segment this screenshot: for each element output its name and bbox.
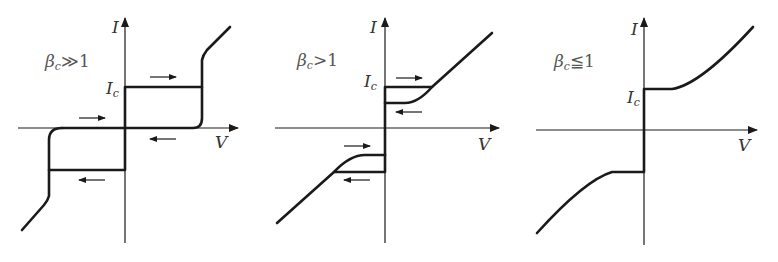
condition-label: βc≦1 xyxy=(553,51,595,73)
iv-curve-quasiparticle-upper xyxy=(62,27,230,128)
panel-2: βc>1 I V Ic xyxy=(275,17,499,243)
iv-curve-retrap-lower xyxy=(277,155,385,223)
i-axis-label: I xyxy=(111,17,119,37)
i-axis-label: I xyxy=(630,19,638,39)
i-axis-label: I xyxy=(369,17,377,37)
v-axis-label: V xyxy=(478,134,492,154)
iv-curve-upper xyxy=(125,87,202,128)
iv-curve-lower xyxy=(49,128,125,170)
ic-label: Ic xyxy=(105,78,119,100)
iv-characteristics-figure: βc≫1 I V Ic βc>1 I V Ic βc≦1 I V Ic xyxy=(0,0,778,262)
panel-3: βc≦1 I V Ic xyxy=(536,18,757,245)
ic-label: Ic xyxy=(363,71,377,93)
iv-curve-quasiparticle-lower xyxy=(22,128,62,230)
iv-curve-retrap-upper xyxy=(385,33,492,103)
iv-curve-upper xyxy=(385,87,432,155)
condition-label: βc>1 xyxy=(296,50,338,72)
condition-label: βc≫1 xyxy=(44,51,90,73)
v-axis-label: V xyxy=(738,135,752,155)
panel-1: βc≫1 I V Ic xyxy=(18,17,238,243)
ic-label: Ic xyxy=(626,87,640,109)
v-axis-label: V xyxy=(215,132,229,152)
